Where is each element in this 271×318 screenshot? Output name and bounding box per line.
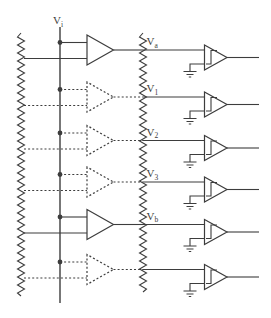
- junction-dot: [58, 87, 63, 92]
- latch-comparator-3: [143, 136, 259, 168]
- latch-triangle: [205, 92, 228, 117]
- latch-comparator-1: [143, 45, 259, 77]
- junction-dot: [58, 131, 63, 136]
- amp-triangle: [87, 126, 114, 156]
- preamplifier-3: [24, 126, 143, 156]
- step-function-icon: [206, 98, 217, 112]
- latch-triangle: [205, 220, 228, 245]
- interpolation-resistor-ladder: [140, 33, 147, 292]
- preamplifier-2: [24, 82, 143, 112]
- preamplifier-5: [24, 210, 143, 240]
- step-function-icon: [206, 270, 217, 284]
- latch-triangle: [205, 177, 228, 202]
- tap-voltage-label-4: V3: [147, 167, 159, 182]
- latch-comparator-5: [143, 220, 259, 252]
- circuit-figure: ViVaV1V2V3Vb: [0, 0, 271, 318]
- preamplifier-6: [24, 255, 143, 285]
- tap-voltage-label-3: V2: [147, 126, 159, 141]
- preamplifier-4: [24, 167, 143, 197]
- ground-symbol: [184, 284, 205, 297]
- junction-dot: [58, 172, 63, 177]
- tap-voltage-label-2: V1: [147, 82, 159, 97]
- amp-triangle: [87, 35, 114, 65]
- ground-symbol: [184, 64, 205, 77]
- latch-triangle: [205, 136, 228, 161]
- preamplifier-1: [24, 35, 143, 65]
- latch-comparator-6: [143, 265, 259, 297]
- tap-voltage-label-1: Va: [147, 35, 159, 50]
- latch-comparator-4: [143, 177, 259, 209]
- latch-triangle: [205, 265, 228, 290]
- ground-symbol: [184, 155, 205, 168]
- amp-triangle: [87, 167, 114, 197]
- amp-triangle: [87, 82, 114, 112]
- input-voltage-label: Vi: [53, 14, 63, 29]
- step-function-icon: [206, 183, 217, 197]
- junction-dot: [58, 260, 63, 265]
- interpolating-adc-circuit-diagram: ViVaV1V2V3Vb: [0, 0, 271, 318]
- ground-symbol: [184, 196, 205, 209]
- ground-symbol: [184, 239, 205, 252]
- latch-triangle: [205, 45, 228, 70]
- reference-resistor-ladder: [18, 33, 25, 296]
- amp-triangle: [87, 210, 114, 240]
- tap-voltage-label-5: Vb: [147, 210, 159, 225]
- ground-symbol: [184, 111, 205, 124]
- step-function-icon: [206, 225, 217, 239]
- step-function-icon: [206, 51, 217, 65]
- junction-dot: [58, 215, 63, 220]
- latch-comparator-2: [143, 92, 259, 124]
- junction-dot: [58, 40, 63, 45]
- step-function-icon: [206, 141, 217, 155]
- amp-triangle: [87, 255, 114, 285]
